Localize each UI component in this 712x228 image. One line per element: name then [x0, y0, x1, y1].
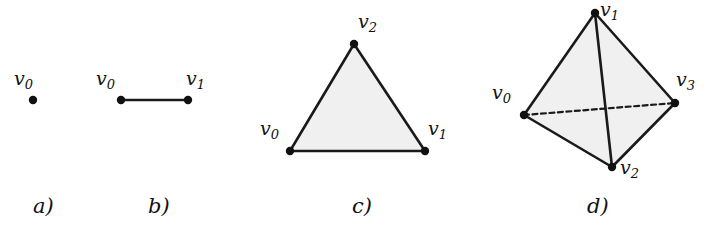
panel-d-vertex-dot-v2 — [608, 163, 616, 171]
panel-b-vertex-dot-v1 — [184, 96, 192, 104]
panel-c-vertex-dot-v2 — [350, 40, 358, 48]
panel-b-vertex-label-v1: v1 — [186, 69, 205, 91]
panel-d-vertex-label-v3: v3 — [676, 70, 695, 92]
panel-c-face-0 — [290, 44, 425, 151]
panel-d-caption: d) — [587, 196, 609, 217]
panel-b-caption: b) — [148, 196, 170, 217]
panel-c-vertex-dot-v1 — [421, 147, 429, 155]
panel-a-vertex-dot-v0 — [29, 96, 37, 104]
panel-c-vertex-label-v1: v1 — [428, 119, 447, 141]
panel-c-caption: c) — [352, 196, 372, 217]
panel-b-vertex-label-v0: v0 — [96, 69, 115, 91]
panel-d-vertex-label-v0: v0 — [492, 83, 511, 105]
panel-c-vertex-dot-v0 — [286, 147, 294, 155]
panel-d-vertex-dot-v1 — [591, 9, 599, 17]
panel-a-caption: a) — [33, 196, 54, 217]
panel-c-vertex-label-v0: v0 — [260, 119, 279, 141]
panel-c-vertex-label-v2: v2 — [358, 12, 377, 34]
simplices-figure: v0a)v0v1b)v0v1v2c)v0v1v2v3d) — [0, 0, 712, 228]
panel-a-vertex-label-v0: v0 — [14, 69, 33, 91]
panel-d-vertex-label-v2: v2 — [620, 158, 639, 180]
panel-d-vertex-dot-v0 — [520, 111, 528, 119]
panel-d-vertex-dot-v3 — [671, 99, 679, 107]
panel-b-vertex-dot-v0 — [117, 96, 125, 104]
panel-d-vertex-label-v1: v1 — [600, 0, 619, 22]
